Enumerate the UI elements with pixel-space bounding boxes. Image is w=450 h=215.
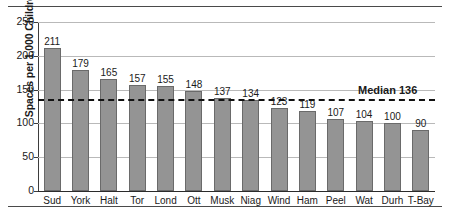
gridline [38,123,435,124]
y-axis-tick [34,157,38,158]
gridline [38,22,435,23]
bar-value-label: 211 [35,36,69,47]
y-axis-tick-label: 100 [0,116,34,128]
bar-chart-figure: Spaces per 1,000 Children 05010015020025… [0,0,450,215]
bar [214,98,231,191]
bar [327,119,344,191]
top-divider-rule [8,6,442,7]
bar [157,86,174,191]
y-axis-tick-label: 50 [0,150,34,162]
bar [100,79,117,191]
bar [412,130,429,191]
median-line [38,99,435,101]
y-axis-tick [34,191,38,192]
x-axis-line [38,191,435,192]
y-axis-tick-label: 200 [0,49,34,61]
gridline [38,157,435,158]
x-axis-category-label: T-Bay [401,195,441,206]
bar [384,123,401,191]
bar [356,121,373,191]
y-axis-tick-label: 250 [0,15,34,27]
bar [271,108,288,191]
bar [299,111,316,191]
bar [185,91,202,191]
plot-area: 050100150200250211Sud179York165Halt157To… [38,22,435,191]
y-axis-tick [34,56,38,57]
y-axis-tick-label: 150 [0,83,34,95]
y-axis-tick [34,123,38,124]
bar [44,48,61,191]
y-axis-tick [34,22,38,23]
y-axis-tick-label: 0 [0,184,34,196]
bar-value-label: 90 [404,118,438,129]
y-axis-tick [34,90,38,91]
gridline [38,56,435,57]
bar [242,100,259,191]
median-label: Median 136 [358,84,417,96]
bottom-divider-rule [8,206,442,207]
bar [72,70,89,191]
